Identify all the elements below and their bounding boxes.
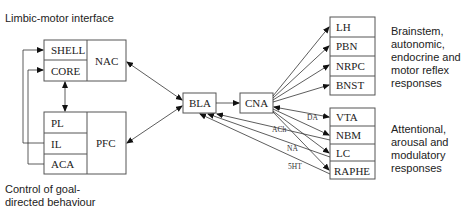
edge-label-5ht: 5HT	[288, 162, 302, 171]
caption-goal-directed-line1: Control of goal-	[5, 183, 81, 195]
edge-cna-vta	[274, 107, 329, 117]
edge-cna-lh	[273, 27, 329, 96]
node-nac: NAC	[95, 55, 118, 67]
node-bla: BLA	[189, 97, 211, 109]
edge-cna-pbn	[273, 46, 329, 98]
edge-aca-core	[28, 70, 44, 164]
node-core: CORE	[51, 65, 81, 77]
output-group-modulatory: VTA NBM LC RAPHE	[330, 108, 375, 179]
node-lc: LC	[336, 147, 350, 159]
edge-cna-nrpc	[273, 65, 329, 100]
edge-nac-bla	[127, 62, 182, 100]
caption-attentional-line2: arousal and	[391, 136, 449, 148]
pfc-group: PL IL ACA PFC	[44, 112, 126, 174]
nac-group: SHELL CORE NAC	[44, 40, 126, 81]
caption-brainstem-line3: endocrine and	[391, 51, 461, 63]
node-raphe: RAPHE	[334, 165, 370, 177]
caption-brainstem-line2: autonomic,	[391, 38, 445, 50]
node-pbn: PBN	[336, 40, 357, 52]
node-nbm: NBM	[336, 129, 361, 141]
edge-raphe-bla	[200, 114, 330, 174]
caption-attentional-line4: responses	[391, 162, 442, 174]
node-aca: ACA	[51, 158, 74, 170]
caption-attentional-line3: modulatory	[391, 149, 446, 161]
edge-pfc-bla	[127, 106, 182, 143]
node-lh: LH	[336, 21, 351, 33]
caption-goal-directed-line2: directed behaviour	[5, 196, 96, 208]
edge-label-na: NA	[287, 144, 298, 153]
caption-attentional-line1: Attentional,	[391, 123, 446, 135]
caption-brainstem-line5: responses	[391, 77, 442, 89]
caption-brainstem-line4: motor reflex	[391, 64, 450, 76]
node-bnst: BNST	[336, 79, 364, 91]
edge-label-da: DA	[307, 113, 318, 122]
node-shell: SHELL	[51, 44, 86, 56]
amygdala-circuit-diagram: Limbic-motor interface Control of goal- …	[0, 0, 470, 210]
edge-label-ach: ACh	[272, 125, 286, 134]
node-cna: CNA	[245, 97, 268, 109]
output-group-brainstem: LH PBN NRPC BNST	[330, 17, 375, 95]
node-nrpc: NRPC	[336, 60, 365, 72]
node-pl: PL	[51, 117, 64, 129]
node-pfc: PFC	[96, 137, 116, 149]
edge-il-shell	[23, 50, 44, 143]
caption-brainstem-line1: Brainstem,	[391, 25, 444, 37]
node-il: IL	[51, 138, 62, 150]
caption-limbic-motor: Limbic-motor interface	[5, 12, 114, 24]
node-vta: VTA	[336, 111, 358, 123]
edge-cna-bnst	[273, 85, 329, 102]
